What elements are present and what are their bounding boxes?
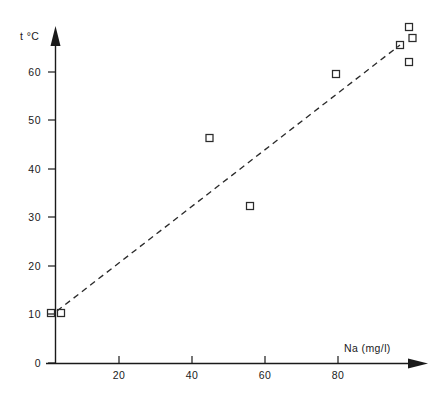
y-axis-title: t °C (20, 30, 39, 42)
data-point-marker (247, 203, 254, 210)
x-tick-label-40: 40 (186, 369, 199, 381)
data-point-marker (409, 35, 416, 42)
plot-axes (46, 26, 428, 369)
y-tick-label-10: 10 (28, 308, 41, 320)
data-point-marker (48, 310, 55, 317)
y-axis-ticks (48, 72, 56, 363)
data-point-marker (333, 71, 340, 78)
x-tick-label-20: 20 (113, 369, 126, 381)
y-tick-label-40: 40 (28, 163, 41, 175)
y-axis-arrow-icon (51, 26, 61, 46)
y-tick-label-0: 0 (35, 357, 41, 369)
y-tick-label-60: 60 (28, 66, 41, 78)
data-point-marker (406, 24, 413, 31)
chart-page: 0 10 20 30 40 50 60 20 40 60 80 t °C Na … (0, 0, 440, 400)
x-tick-label-80: 80 (332, 369, 345, 381)
y-tick-label-30: 30 (28, 211, 41, 223)
y-tick-label-20: 20 (28, 260, 41, 272)
data-point-marker (206, 135, 213, 142)
scatter-plot: 0 10 20 30 40 50 60 20 40 60 80 t °C Na … (0, 0, 440, 400)
x-axis-ticks (119, 356, 338, 364)
x-axis-title: Na (mg/l) (344, 342, 391, 354)
x-axis-arrow-icon (408, 359, 428, 369)
y-tick-label-50: 50 (28, 114, 41, 126)
trend-line (57, 45, 400, 311)
data-markers (48, 24, 417, 317)
x-tick-label-60: 60 (259, 369, 272, 381)
y-axis-tick-labels: 0 10 20 30 40 50 60 (28, 66, 41, 369)
x-axis-tick-labels: 20 40 60 80 (113, 369, 345, 381)
data-point-marker (406, 59, 413, 66)
